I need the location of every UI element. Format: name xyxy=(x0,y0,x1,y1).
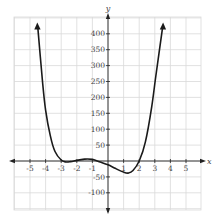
x-axis-right-arrow-icon xyxy=(200,159,206,163)
chart-svg: yx-5-4-3-2-11234540035030025020015010050… xyxy=(0,0,214,216)
curve-left-arrow-icon xyxy=(34,22,40,29)
x-tick-label: -3 xyxy=(58,164,66,173)
y-tick-label: 200 xyxy=(91,93,106,102)
y-axis-up-arrow-icon xyxy=(106,13,110,19)
y-tick-label: 150 xyxy=(91,109,106,118)
curve-right-arrow-icon xyxy=(160,22,166,29)
y-tick-label: 100 xyxy=(91,125,106,134)
x-axis-left-arrow-icon xyxy=(9,159,15,163)
y-axis-down-arrow-icon xyxy=(106,208,110,214)
y-axis-label: y xyxy=(105,4,111,13)
y-tick-label: 250 xyxy=(91,77,106,86)
x-tick-label: 3 xyxy=(152,164,157,173)
x-tick-label: -5 xyxy=(26,164,34,173)
y-tick-label: -50 xyxy=(93,173,105,182)
y-tick-label: 50 xyxy=(95,141,105,150)
x-axis-label: x xyxy=(207,157,212,166)
y-tick-label: -100 xyxy=(88,188,105,197)
y-tick-label: 300 xyxy=(91,61,106,70)
x-tick-label: 5 xyxy=(184,164,189,173)
y-tick-label: 350 xyxy=(91,45,106,54)
x-tick-label: -4 xyxy=(42,164,50,173)
x-tick-label: -2 xyxy=(73,164,81,173)
y-tick-label: 400 xyxy=(91,29,106,38)
x-tick-label: 4 xyxy=(168,164,173,173)
